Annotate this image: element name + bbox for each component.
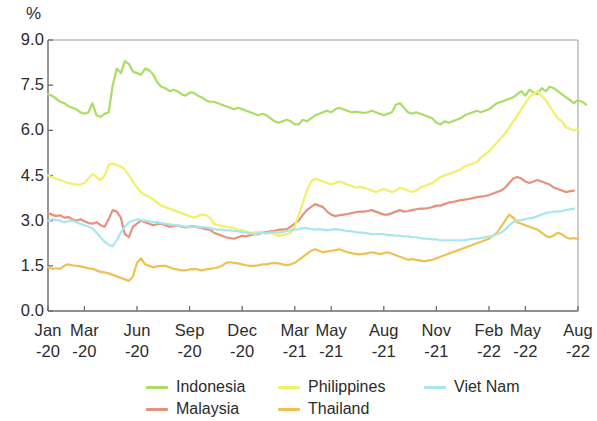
x-axis-tick-label: Sep-20 — [163, 320, 217, 362]
legend-label: Viet Nam — [454, 378, 520, 396]
x-tick-month: Jun — [110, 320, 164, 341]
legend-label: Indonesia — [176, 378, 245, 396]
y-axis-tick-label: 6.0 — [4, 120, 44, 139]
x-tick-month: Sep — [163, 320, 217, 341]
legend-item-viet-nam[interactable]: Viet Nam — [424, 378, 520, 396]
axis-frame — [48, 40, 578, 311]
x-tick-year: -22 — [551, 341, 597, 362]
x-axis-tick-label: Dec-20 — [215, 320, 269, 362]
x-tick-month: May — [304, 320, 358, 341]
legend-label: Philippines — [308, 378, 385, 396]
legend-item-philippines[interactable]: Philippines — [278, 378, 385, 396]
x-axis-tick-label: Jun-20 — [110, 320, 164, 362]
legend-swatch-icon — [278, 408, 300, 411]
x-tick-month: May — [498, 320, 552, 341]
x-tick-year: -21 — [304, 341, 358, 362]
x-axis-tick-label: Aug-21 — [357, 320, 411, 362]
x-tick-month: Nov — [409, 320, 463, 341]
legend-item-thailand[interactable]: Thailand — [278, 400, 369, 418]
x-tick-month: Mar — [57, 320, 111, 341]
series-line-philippines — [48, 91, 578, 236]
x-tick-year: -20 — [215, 341, 269, 362]
x-axis-tick-labels: Jan-20Mar-20Jun-20Sep-20Dec-20Mar-21May-… — [0, 316, 590, 372]
x-tick-year: -20 — [163, 341, 217, 362]
x-tick-year: -20 — [57, 341, 111, 362]
x-tick-month: Aug — [357, 320, 411, 341]
legend-label: Thailand — [308, 400, 369, 418]
series-line-indonesia — [48, 61, 586, 124]
legend-swatch-icon — [146, 408, 168, 411]
legend-swatch-icon — [146, 386, 168, 389]
axis-tick-marks — [48, 40, 578, 311]
x-axis-tick-label: Mar-20 — [57, 320, 111, 362]
legend-item-malaysia[interactable]: Malaysia — [146, 400, 239, 418]
legend-swatch-icon — [424, 386, 446, 389]
legend-swatch-icon — [278, 386, 300, 389]
y-axis-tick-label: 3.0 — [4, 211, 44, 230]
x-tick-year: -22 — [498, 341, 552, 362]
x-tick-month: Aug — [551, 320, 597, 341]
y-axis-tick-label: 7.5 — [4, 75, 44, 94]
y-axis-tick-label: 9.0 — [4, 30, 44, 49]
x-axis-tick-label: Nov-21 — [409, 320, 463, 362]
x-tick-year: -21 — [357, 341, 411, 362]
y-axis-tick-label: 4.5 — [4, 166, 44, 185]
x-tick-year: -21 — [409, 341, 463, 362]
x-axis-tick-label: Aug-22 — [551, 320, 597, 362]
legend-label: Malaysia — [176, 400, 239, 418]
chart-legend: IndonesiaMalaysiaPhilippinesThailandViet… — [0, 378, 590, 421]
x-tick-month: Dec — [215, 320, 269, 341]
series-lines-layer — [48, 61, 586, 281]
x-axis-tick-label: May-22 — [498, 320, 552, 362]
x-axis-tick-label: May-21 — [304, 320, 358, 362]
series-line-viet-nam — [48, 209, 574, 247]
x-tick-year: -20 — [110, 341, 164, 362]
legend-item-indonesia[interactable]: Indonesia — [146, 378, 245, 396]
y-axis-tick-label: 1.5 — [4, 256, 44, 275]
